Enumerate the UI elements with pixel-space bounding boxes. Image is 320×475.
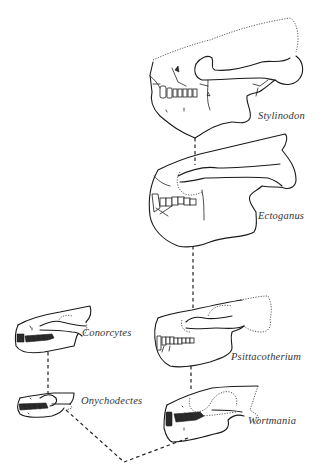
phylogeny-diagram: Stylinodon Ectoganus Psittacotherium Wor…	[0, 0, 320, 475]
skull-ectoganus	[149, 134, 296, 247]
skull-onychodectes	[18, 393, 74, 417]
label-psittacotherium: Psittacotherium	[231, 351, 301, 362]
label-ectoganus: Ectoganus	[258, 210, 304, 221]
label-stylinodon: Stylinodon	[258, 110, 305, 121]
connector-lines	[48, 138, 195, 462]
label-onychodectes: Onychodectes	[81, 395, 142, 406]
label-conorcytes: Conorcytes	[82, 327, 131, 338]
label-wortmania: Wortmania	[248, 415, 296, 426]
connector-onychodectes-ancestor	[66, 410, 124, 462]
skull-conorcytes	[15, 306, 90, 353]
skull-wortmania	[164, 386, 259, 442]
diagram-artwork	[0, 0, 320, 475]
